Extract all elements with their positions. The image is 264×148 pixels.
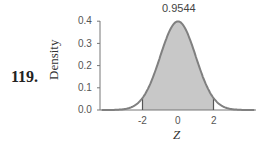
normal-curve-plot <box>0 0 264 148</box>
